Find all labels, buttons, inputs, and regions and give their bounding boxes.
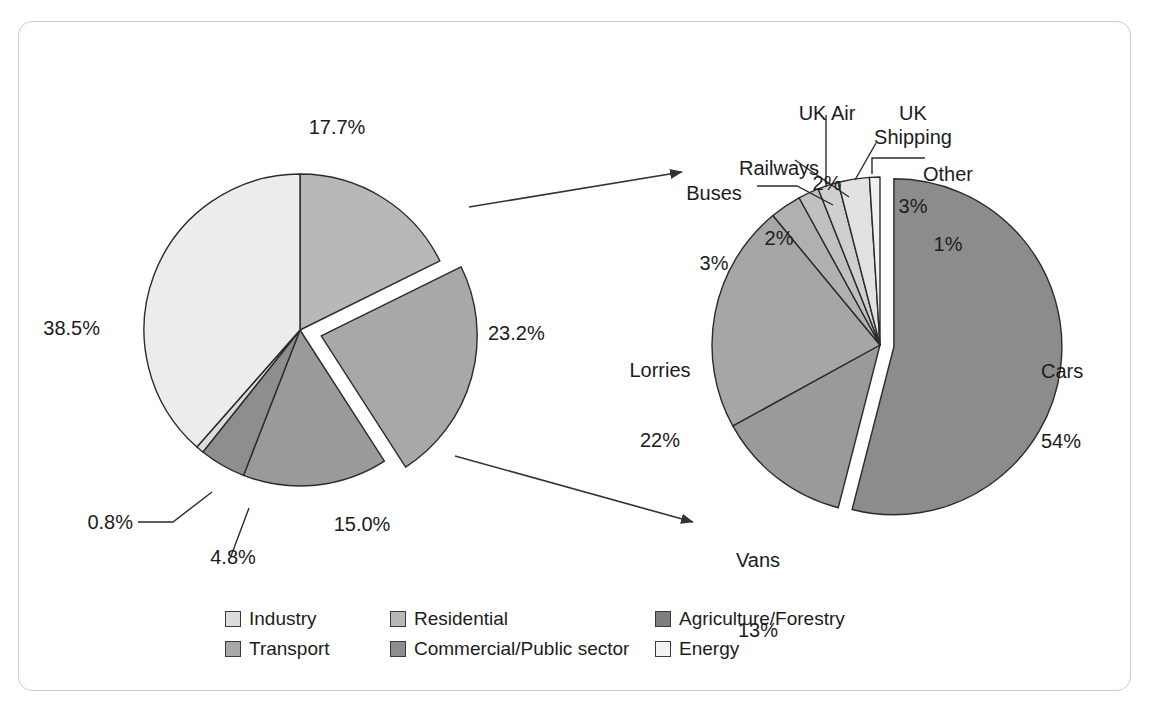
legend-item-commercial-public-sector[interactable]: Commercial/Public sector (390, 638, 655, 660)
right-label-vans-name: Vans (703, 549, 813, 572)
legend-label-transport: Transport (249, 638, 330, 660)
right-label-cars-name: Cars (1041, 360, 1151, 383)
left-label-industry: 0.8% (33, 511, 133, 534)
right-label-lorries-value: 22% (605, 429, 715, 452)
figure-root: 17.7% 23.2% 15.0% 4.8% 0.8% 38.5% Cars 5… (0, 0, 1153, 713)
legend-label-residential: Residential (414, 608, 508, 630)
leader-line-industry (138, 492, 212, 522)
legend-swatch-transport-icon (225, 641, 241, 657)
left-pie-chart (144, 174, 477, 486)
connector-arrow-top (469, 172, 682, 207)
legend-swatch-agriculture-forestry-icon (655, 611, 671, 627)
legend-label-industry: Industry (249, 608, 317, 630)
legend-swatch-industry-icon (225, 611, 241, 627)
legend-label-commercial-public-sector: Commercial/Public sector (414, 638, 629, 660)
right-label-other-value: 1% (900, 233, 996, 256)
legend-item-industry[interactable]: Industry (225, 608, 390, 630)
left-label-commercial: 4.8% (178, 546, 288, 569)
legend-item-energy[interactable]: Energy (655, 638, 955, 660)
legend-swatch-energy-icon (655, 641, 671, 657)
chart-legend: Industry Residential Agriculture/Forestr… (225, 608, 985, 668)
legend-row-2: Transport Commercial/Public sector Energ… (225, 638, 985, 668)
left-label-agriculture: 15.0% (307, 513, 417, 536)
right-label-lorries: Lorries 22% (605, 313, 715, 499)
left-label-residential: 17.7% (282, 116, 392, 139)
legend-item-agriculture-forestry[interactable]: Agriculture/Forestry (655, 608, 955, 630)
legend-label-energy: Energy (679, 638, 739, 660)
right-label-other-name: Other (900, 163, 996, 186)
right-label-lorries-name: Lorries (605, 359, 715, 382)
pie-canvas (0, 0, 1153, 713)
right-label-cars: Cars 54% (1041, 314, 1151, 500)
legend-label-agriculture-forestry: Agriculture/Forestry (679, 608, 845, 630)
legend-swatch-commercial-public-sector-icon (390, 641, 406, 657)
legend-item-transport[interactable]: Transport (225, 638, 390, 660)
left-label-energy: 38.5% (0, 317, 100, 340)
legend-item-residential[interactable]: Residential (390, 608, 655, 630)
right-label-other: Other 1% (900, 117, 996, 303)
legend-row-1: Industry Residential Agriculture/Forestr… (225, 608, 985, 638)
legend-swatch-residential-icon (390, 611, 406, 627)
left-label-transport: 23.2% (488, 322, 598, 345)
right-label-cars-value: 54% (1041, 430, 1151, 453)
